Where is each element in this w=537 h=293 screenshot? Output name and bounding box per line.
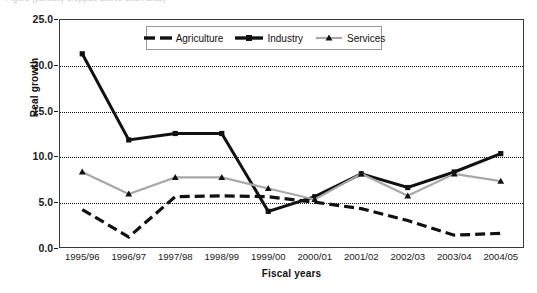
chart-legend: Agriculture Industry Services — [146, 26, 382, 50]
x-axis-tick-label: 1997/98 — [158, 251, 193, 262]
x-axis-tick-label: 1998/99 — [204, 251, 239, 262]
x-axis-tick-label: 2003/04 — [437, 251, 472, 262]
x-axis-tick-label: 1999/00 — [251, 251, 286, 262]
y-axis-title: Real growth — [29, 28, 40, 148]
x-axis-tick-label: 1996/97 — [111, 251, 146, 262]
legend-item-services: Services — [314, 33, 385, 44]
legend-item-industry: Industry — [234, 33, 303, 44]
y-axis-tick-label: 15.0 — [33, 105, 53, 117]
legend-item-agriculture: Agriculture — [143, 33, 224, 44]
plot-area — [59, 19, 524, 248]
legend-swatch-services-icon — [314, 33, 344, 43]
y-axis-tick-label: 5.0 — [38, 196, 53, 208]
x-axis-tick-label: 2004/05 — [483, 251, 518, 262]
y-axis-tick-label: 20.0 — [33, 59, 53, 71]
x-axis-title: Fiscal years — [59, 268, 524, 279]
x-axis: 1995/961996/971997/981998/991999/002000/… — [59, 251, 524, 269]
y-axis-tick-mark — [54, 19, 58, 20]
chart-figure: Figure (partially cropped above chart ar… — [0, 0, 537, 293]
y-axis-tick-label: 10.0 — [33, 150, 53, 162]
x-axis-tick-label: 1995/96 — [65, 251, 100, 262]
y-axis-tick-mark — [54, 156, 58, 157]
gridline — [60, 157, 523, 158]
x-axis-tick-label: 2002/03 — [390, 251, 425, 262]
y-axis-tick-mark — [54, 202, 58, 203]
y-axis: Real growth 0.05.010.015.020.025.0 — [0, 0, 58, 293]
gridline — [60, 66, 523, 67]
y-axis-tick-mark — [54, 248, 58, 249]
x-axis-tick-label: 2000/01 — [297, 251, 332, 262]
x-axis-tick-label: 2001/02 — [344, 251, 379, 262]
legend-label-services: Services — [347, 33, 385, 44]
y-axis-tick-label: 0.0 — [38, 242, 53, 254]
legend-label-agriculture: Agriculture — [176, 33, 224, 44]
y-axis-tick-mark — [54, 65, 58, 66]
cropped-caption-strip: Figure (partially cropped above chart ar… — [0, 0, 537, 11]
gridline — [60, 203, 523, 204]
legend-swatch-agriculture-icon — [143, 33, 173, 43]
y-axis-tick-label: 25.0 — [33, 13, 53, 25]
gridline — [60, 112, 523, 113]
y-axis-tick-mark — [54, 111, 58, 112]
legend-label-industry: Industry — [267, 33, 303, 44]
legend-swatch-industry-icon — [234, 33, 264, 43]
